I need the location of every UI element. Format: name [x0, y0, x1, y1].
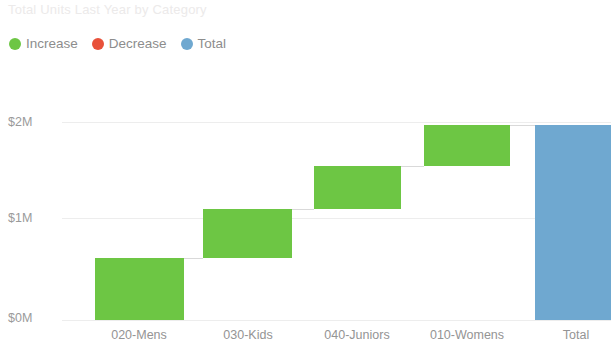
xtick-label-040-juniors: 040-Juniors: [324, 328, 389, 342]
ytick-label-2m: $2M: [8, 115, 32, 129]
bar-020-mens[interactable]: [95, 258, 184, 320]
ytick-label-1m: $1M: [8, 211, 32, 225]
xtick-label-total: Total: [563, 328, 589, 342]
bar-010-womens[interactable]: [424, 125, 510, 166]
waterfall-chart-plot: $2M $1M $0M 020-Mens 030-Kids 040-Junior…: [0, 0, 611, 348]
xtick-label-030-kids: 030-Kids: [223, 328, 272, 342]
gridline-2m: [62, 122, 611, 123]
waterfall-connector: [401, 166, 424, 167]
gridline-1m: [62, 218, 611, 219]
xtick-label-020-mens: 020-Mens: [111, 328, 167, 342]
waterfall-connector: [292, 209, 314, 210]
xtick-label-010-womens: 010-Womens: [430, 328, 504, 342]
ytick-label-0m: $0M: [8, 311, 32, 325]
waterfall-connector: [510, 125, 535, 126]
waterfall-connector: [184, 258, 203, 259]
bar-total[interactable]: [535, 125, 611, 320]
bar-040-juniors[interactable]: [314, 166, 401, 209]
bar-030-kids[interactable]: [203, 209, 292, 258]
gridline-0m: [62, 320, 611, 321]
